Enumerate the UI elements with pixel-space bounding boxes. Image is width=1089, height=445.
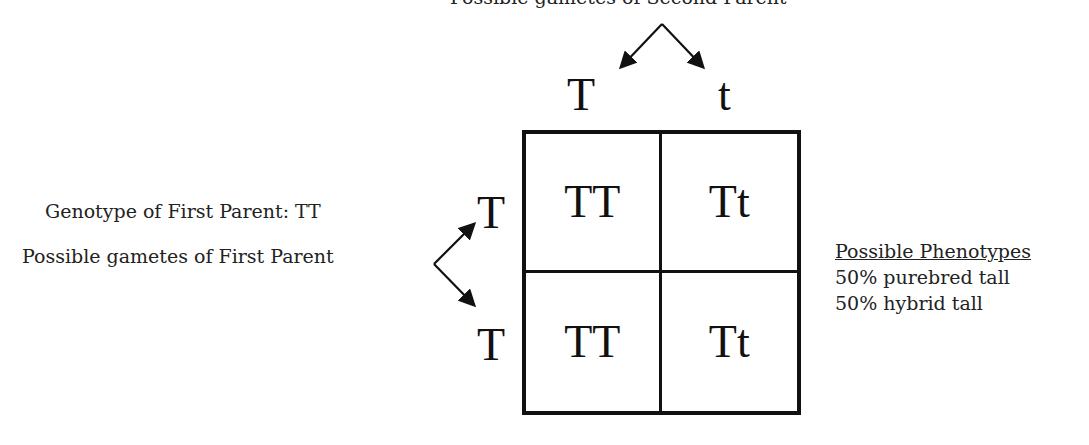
punnett-cell: TT: [526, 134, 662, 273]
phenotype-item: 50% purebred tall: [835, 264, 1031, 290]
punnett-square: TT Tt TT Tt: [522, 130, 801, 415]
punnett-cell: Tt: [662, 273, 798, 412]
first-parent-gamete-1: T: [477, 190, 505, 236]
punnett-cell: TT: [526, 273, 662, 412]
first-parent-gamete-2: T: [477, 322, 505, 368]
phenotype-item: 50% hybrid tall: [835, 290, 1031, 316]
second-parent-gamete-1: T: [567, 72, 595, 118]
second-parent-gametes-label: Possible gametes of Second Parent: [450, 0, 787, 8]
second-parent-gamete-2: t: [718, 72, 731, 118]
arrow-to-first-gamete-2: [434, 264, 473, 304]
arrow-to-first-gamete-1: [434, 225, 473, 264]
phenotypes-title: Possible Phenotypes: [835, 238, 1031, 264]
arrow-to-second-gamete-2: [662, 24, 702, 66]
first-parent-genotype-label: Genotype of First Parent: TT: [45, 200, 321, 222]
punnett-cell: Tt: [662, 134, 798, 273]
phenotypes-panel: Possible Phenotypes 50% purebred tall 50…: [835, 238, 1031, 316]
arrow-to-second-gamete-1: [622, 24, 662, 66]
first-parent-gametes-label: Possible gametes of First Parent: [22, 245, 334, 267]
